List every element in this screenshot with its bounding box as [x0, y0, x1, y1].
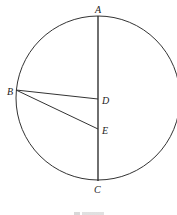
label-e: E	[101, 125, 108, 136]
label-b: B	[7, 86, 13, 97]
geometry-figure: A B D E C	[0, 0, 177, 215]
segment-be	[16, 90, 98, 129]
segment-bd	[16, 90, 98, 99]
label-d: D	[101, 95, 110, 106]
caption-fragment	[74, 212, 104, 215]
label-a: A	[94, 4, 102, 15]
figure-caption-clipped	[0, 210, 177, 215]
circle	[16, 16, 177, 180]
label-c: C	[94, 184, 101, 195]
